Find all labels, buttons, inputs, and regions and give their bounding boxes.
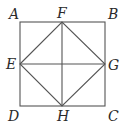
label-d: D — [7, 108, 19, 124]
label-f: F — [56, 5, 68, 21]
label-c: C — [108, 108, 119, 124]
label-h: H — [56, 108, 70, 124]
label-a: A — [7, 6, 19, 22]
label-g: G — [108, 57, 119, 73]
geometry-diagram: A F B E G D H C — [0, 0, 123, 126]
label-e: E — [5, 56, 16, 72]
label-b: B — [107, 6, 118, 22]
